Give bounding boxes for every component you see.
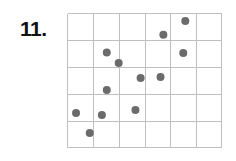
data-point: [72, 109, 80, 117]
data-points: [72, 17, 189, 137]
data-point: [115, 59, 123, 67]
scatter-plot-figure: 11.: [0, 0, 236, 161]
data-point: [159, 31, 167, 39]
data-point: [103, 86, 111, 94]
data-point: [181, 17, 189, 25]
data-point: [98, 111, 106, 119]
data-point: [103, 48, 111, 56]
data-point: [157, 73, 165, 81]
data-point: [86, 129, 94, 137]
data-point: [137, 74, 145, 82]
data-point: [179, 49, 187, 57]
data-point: [131, 106, 139, 114]
grid-lines: [68, 14, 222, 148]
scatter-plot-svg: [67, 13, 222, 148]
plot-area: [67, 13, 222, 148]
problem-number-label: 11.: [20, 18, 47, 39]
